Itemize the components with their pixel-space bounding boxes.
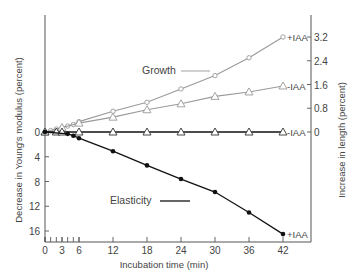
x-tick-label: 3 [59, 245, 65, 256]
x-tick-label: 18 [141, 245, 153, 256]
x-tick-label: 36 [243, 245, 255, 256]
circle-marker [145, 100, 149, 104]
series-end-label: -IAA [287, 127, 306, 138]
y-left-tick-label: 12 [29, 201, 41, 212]
dot-marker [247, 210, 252, 215]
y-right-tick-label: 0 [314, 127, 320, 138]
y-right-tick-label: 3.2 [314, 32, 328, 43]
circle-marker [213, 73, 217, 77]
y-right-tick-label: 0.8 [314, 103, 328, 114]
dot-marker [213, 190, 218, 195]
dot-marker [71, 133, 76, 138]
y-left-tick-label: 0 [34, 127, 40, 138]
circle-marker [179, 87, 183, 91]
x-tick-label: 42 [277, 245, 289, 256]
x-tick-label: 12 [107, 245, 119, 256]
y-left-tick-label: 4 [34, 152, 40, 163]
dot-marker [111, 149, 116, 154]
y-right-tick-label: 1.6 [314, 80, 328, 91]
chart: 036121824303642048121600.81.62.43.2 +IAA… [0, 0, 356, 280]
y-right-tick-label: 2.4 [314, 56, 328, 67]
legend-growth-label: Growth [142, 64, 176, 76]
x-tick-label: 30 [209, 245, 221, 256]
x-tick-label: 6 [76, 245, 82, 256]
series-line [45, 132, 283, 234]
y-left-tick-label: 8 [34, 177, 40, 188]
series-line [45, 37, 283, 132]
series-end-label: -IAA [287, 81, 306, 92]
x-tick-label: 0 [42, 245, 48, 256]
series-end-label: +IAA [287, 229, 309, 240]
x-tick-label: 24 [175, 245, 187, 256]
y-axis-left-title: Decrease in Young's modulus (percent) [13, 57, 24, 223]
dot-marker [145, 163, 150, 168]
circle-marker [247, 56, 251, 60]
circle-marker [281, 35, 285, 39]
x-axis-title: Incubation time (min) [120, 259, 209, 270]
y-axis-right-title: Increase in length (percent) [336, 82, 347, 198]
legend-elasticity-label: Elasticity [110, 194, 152, 206]
triangle-marker [279, 82, 287, 89]
dot-marker [65, 132, 70, 137]
dot-marker [77, 136, 82, 141]
y-left-tick-label: 16 [29, 226, 41, 237]
dot-marker [179, 177, 184, 182]
dot-marker [281, 232, 286, 237]
series-end-label: +IAA [287, 32, 309, 43]
dot-marker [43, 130, 48, 135]
